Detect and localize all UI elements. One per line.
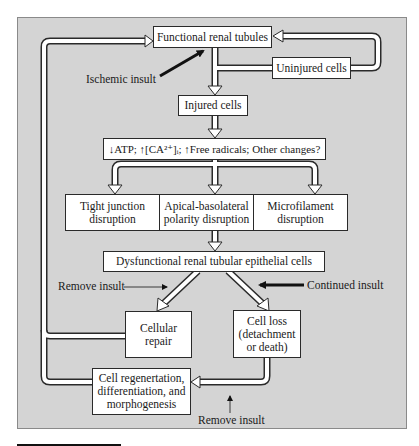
node-functional-renal-tubules: Functional renal tubules <box>153 26 272 48</box>
label-continued-insult: Continued insult <box>307 279 383 292</box>
node-cellular-repair: Cellular repair <box>125 311 192 358</box>
label-remove-insult-bottom: Remove insult <box>198 414 265 427</box>
label-ischemic-insult: Ischemic insult <box>86 73 156 86</box>
node-dysfunctional-cells: Dysfunctional renal tubular epithelial c… <box>103 251 325 272</box>
node-polarity-disruption: Apical-basolateral polarity disruption <box>159 195 253 230</box>
node-uninjured-cells: Uninjured cells <box>272 57 351 79</box>
ischemic-insult-arrow <box>160 51 203 76</box>
node-injured-cells: Injured cells <box>178 95 248 116</box>
node-cell-regeneration: Cell regenertation, differentiation, and… <box>92 368 191 415</box>
node-tight-junction-disruption: Tight junction disruption <box>66 195 159 230</box>
node-cell-loss: Cell loss (detachment or death) <box>233 310 301 358</box>
disruption-row: Tight junction disruption Apical-basolat… <box>65 194 348 231</box>
label-remove-insult-top: Remove insult <box>58 280 125 293</box>
node-microfilament-disruption: Microfilament disruption <box>253 195 347 230</box>
node-biochemical-changes: ↓ATP; ↑[CA²⁺]ᵢ; ↑Free radicals; Other ch… <box>103 138 326 160</box>
